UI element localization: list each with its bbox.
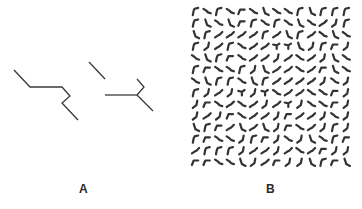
texture-element (204, 43, 209, 50)
texture-element (296, 113, 303, 118)
texture-element (297, 8, 302, 15)
texture-element (320, 102, 327, 107)
panel-a-line-figures (0, 0, 181, 209)
texture-element (193, 66, 198, 73)
texture-element (285, 9, 292, 14)
texture-element (274, 20, 279, 27)
texture-element (192, 78, 199, 83)
texture-element (308, 102, 315, 107)
texture-element (250, 9, 257, 14)
texture-element (296, 78, 303, 83)
texture-element (273, 67, 280, 72)
texture-element (192, 55, 199, 60)
panel-b-texture-grid (181, 0, 362, 209)
texture-element (331, 161, 337, 166)
texture-element (250, 113, 257, 118)
texture-element (216, 8, 221, 15)
texture-element (227, 102, 234, 107)
texture-element (193, 112, 198, 119)
texture-element (228, 43, 233, 50)
texture-element (262, 101, 267, 108)
texture-element (251, 136, 256, 143)
texture-element (333, 66, 338, 73)
texture-element (285, 114, 291, 119)
texture-element (344, 124, 349, 131)
texture-element (308, 20, 315, 25)
texture-element (250, 55, 257, 60)
texture-element (193, 101, 198, 108)
panel-b: B (181, 0, 362, 209)
texture-element (344, 78, 349, 85)
texture-element (309, 43, 314, 50)
texture-element (215, 32, 222, 37)
texture-element (333, 31, 338, 38)
texture-element (228, 89, 233, 96)
texture-element (215, 44, 222, 49)
texture-element (345, 159, 350, 166)
texture-element (308, 78, 315, 83)
texture-element (216, 147, 221, 154)
texture-element (262, 55, 269, 60)
texture-element (296, 125, 303, 130)
texture-element (215, 102, 222, 107)
texture-element (297, 159, 302, 166)
texture-element (194, 124, 199, 131)
lower-branch (137, 95, 153, 111)
texture-element (273, 9, 280, 14)
texture-element (238, 55, 245, 60)
texture-element (274, 147, 279, 154)
texture-element (239, 147, 244, 154)
texture-element (227, 160, 234, 165)
texture-element (320, 78, 325, 85)
texture-element (308, 67, 315, 72)
texture-element (285, 126, 291, 131)
texture-element (251, 159, 256, 166)
texture-element (308, 55, 315, 60)
texture-element (285, 136, 292, 141)
texture-element (320, 112, 325, 119)
texture-element (229, 20, 234, 27)
texture-element (344, 101, 349, 108)
texture-element (298, 20, 303, 27)
texture-element (227, 56, 233, 61)
texture-element (238, 10, 244, 15)
texture-element (320, 136, 327, 141)
texture-element (285, 102, 291, 107)
texture-element (285, 67, 292, 72)
texture-element (262, 160, 269, 165)
texture-element (310, 8, 315, 15)
texture-element (287, 31, 292, 38)
texture-element (227, 67, 234, 72)
texture-element (240, 159, 245, 166)
texture-element (262, 44, 269, 49)
texture-element (262, 78, 267, 85)
texture-element (250, 102, 257, 107)
texture-element (238, 44, 245, 49)
texture-element (310, 159, 315, 166)
texture-element (273, 90, 280, 95)
panel-a-label: A (79, 183, 88, 195)
texture-element (250, 148, 257, 153)
texture-element (228, 147, 233, 154)
texture-element (250, 44, 257, 49)
texture-element (192, 161, 198, 166)
texture-element (205, 20, 210, 27)
texture-element (308, 90, 315, 95)
texture-element (308, 32, 315, 37)
texture-element (227, 125, 234, 130)
texture-element (239, 66, 244, 73)
texture-element (262, 31, 267, 38)
texture-element (228, 78, 233, 85)
texture-element (227, 32, 234, 37)
texture-element (320, 20, 327, 25)
texture-element (238, 32, 245, 37)
texture-element (296, 67, 303, 72)
texture-element (308, 113, 315, 118)
texture-element (215, 136, 222, 141)
texture-element (238, 102, 245, 107)
texture-element (262, 90, 268, 95)
texture-element (262, 137, 268, 142)
texture-element (296, 148, 303, 153)
texture-element (227, 114, 233, 119)
texture-element (193, 20, 198, 27)
